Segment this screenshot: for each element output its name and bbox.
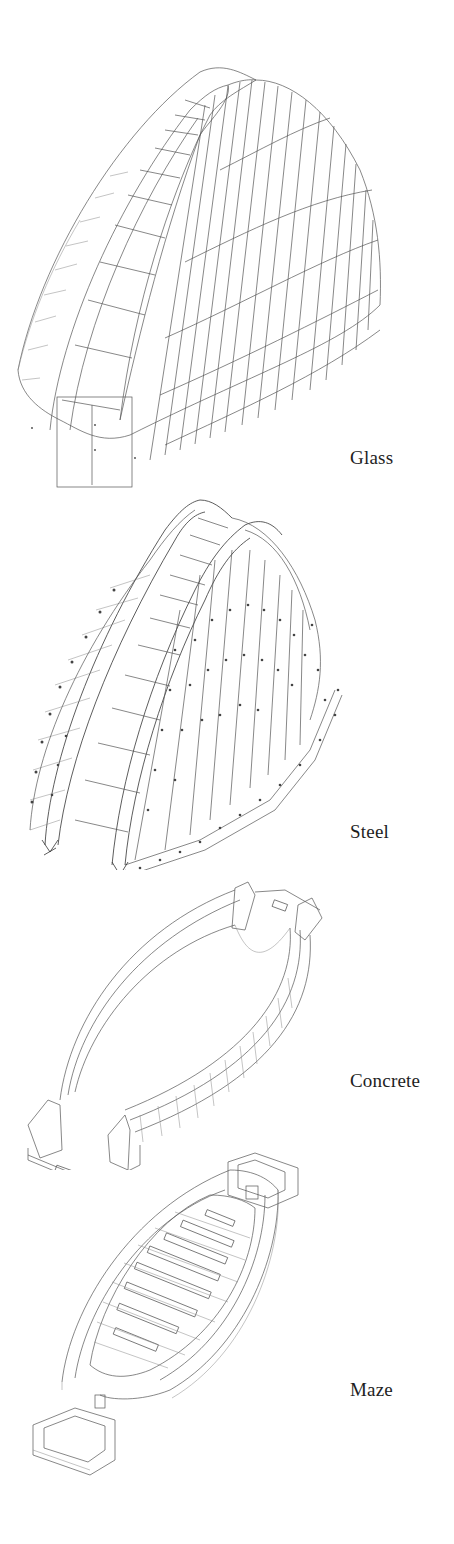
layer-label-concrete: Concrete: [350, 1070, 420, 1092]
glass-shell-drawing: [0, 0, 454, 490]
layer-label-maze: Maze: [350, 1379, 393, 1401]
layer-label-steel: Steel: [350, 821, 389, 843]
maze-floor-drawing: [0, 1150, 454, 1544]
glass-layer: Glass: [0, 0, 454, 490]
maze-layer: Maze: [0, 1150, 454, 1544]
concrete-base-drawing: [0, 870, 454, 1170]
layer-label-glass: Glass: [350, 447, 393, 469]
concrete-layer: Concrete: [0, 870, 454, 1170]
steel-layer: Steel: [0, 490, 454, 870]
steel-frame-drawing: [0, 490, 454, 870]
